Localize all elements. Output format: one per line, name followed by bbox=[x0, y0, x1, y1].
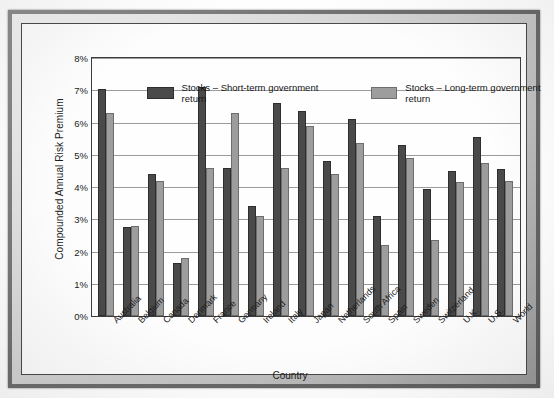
bar-chart: Compounded Annual Risk Premium 8%7%6%5%4… bbox=[44, 38, 536, 388]
bar-short-term bbox=[98, 89, 106, 316]
bar-short-term bbox=[198, 87, 206, 316]
legend-item-short-term: Stocks – Short-term government return bbox=[147, 82, 337, 104]
y-axis-tick-label: 5% bbox=[74, 149, 88, 160]
x-axis-tick-label: Germany bbox=[236, 318, 243, 325]
bar-short-term bbox=[148, 174, 156, 316]
bar-long-term bbox=[505, 181, 513, 316]
y-axis-tick-label: 1% bbox=[74, 278, 88, 289]
photograph-of-printed-chart: Compounded Annual Risk Premium 8%7%6%5%4… bbox=[0, 0, 554, 398]
x-axis-tick-label: U.K. bbox=[461, 318, 468, 325]
plot-area: 8%7%6%5%4%3%2%1%0% Stocks – Short-term g… bbox=[91, 57, 521, 317]
picture-frame-bevel: Compounded Annual Risk Premium 8%7%6%5%4… bbox=[12, 14, 536, 384]
legend-swatch-long-term bbox=[371, 87, 398, 99]
bar-long-term bbox=[231, 113, 239, 316]
bar-group bbox=[119, 58, 144, 316]
bar-short-term bbox=[298, 111, 306, 316]
picture-frame-outer-edge: Compounded Annual Risk Premium 8%7%6%5%4… bbox=[8, 10, 540, 388]
x-axis-tick-label: Netherlands bbox=[336, 318, 343, 325]
y-axis-title: Compounded Annual Risk Premium bbox=[54, 54, 68, 304]
legend-label-short-term: Stocks – Short-term government return bbox=[182, 82, 337, 104]
x-axis-tick-label: France bbox=[211, 318, 218, 325]
x-axis-tick-label: Sweden bbox=[411, 318, 418, 325]
bar-short-term bbox=[323, 161, 331, 316]
legend-item-long-term: Stocks – Long-term government return bbox=[371, 82, 554, 104]
bar-long-term bbox=[406, 158, 414, 316]
legend-swatch-short-term bbox=[147, 87, 174, 99]
bar-long-term bbox=[481, 163, 489, 316]
bar-short-term bbox=[497, 169, 505, 316]
bar-long-term bbox=[306, 126, 314, 316]
x-axis-tick-label: Spain bbox=[386, 318, 393, 325]
y-axis-tick-label: 6% bbox=[74, 117, 88, 128]
y-axis-tick-label: 4% bbox=[74, 182, 88, 193]
bar-short-term bbox=[448, 171, 456, 316]
y-axis-tick-label: 8% bbox=[74, 53, 88, 64]
x-axis-tick-label: World bbox=[511, 318, 518, 325]
legend-label-long-term: Stocks – Long-term government return bbox=[405, 82, 554, 104]
x-axis-tick-label: Denmark bbox=[186, 318, 193, 325]
bar-short-term bbox=[423, 189, 431, 316]
chart-legend: Stocks – Short-term government return St… bbox=[147, 82, 554, 104]
bar-long-term bbox=[331, 174, 339, 316]
x-axis-tick-label: Switzerland bbox=[436, 318, 443, 325]
x-axis-title: Country bbox=[44, 370, 536, 381]
x-axis-tick-label: Australia bbox=[111, 318, 118, 325]
x-axis-tick-label: South Africa bbox=[361, 318, 368, 325]
y-axis-tick-label: 0% bbox=[74, 311, 88, 322]
bar-long-term bbox=[106, 113, 114, 316]
chart-page: Compounded Annual Risk Premium 8%7%6%5%4… bbox=[21, 23, 527, 375]
bar-long-term bbox=[281, 168, 289, 316]
y-axis-tick-label: 3% bbox=[74, 214, 88, 225]
bar-short-term bbox=[273, 103, 281, 316]
bar-short-term bbox=[223, 168, 231, 316]
y-axis-tick-label: 2% bbox=[74, 246, 88, 257]
x-axis-tick-label: Belgium bbox=[136, 318, 143, 325]
x-axis-tick-label: U.S. bbox=[486, 318, 493, 325]
x-axis-tick-label: Italy bbox=[286, 318, 293, 325]
bar-group bbox=[94, 58, 119, 316]
x-axis-tick-label: Japan bbox=[311, 318, 318, 325]
x-axis-tick-label: Canada bbox=[161, 318, 168, 325]
x-axis-tick-label: Ireland bbox=[261, 318, 268, 325]
bar-short-term bbox=[348, 119, 356, 316]
x-axis-tick-labels: AustraliaBelgiumCanadaDenmarkFranceGerma… bbox=[91, 318, 519, 373]
y-axis-tick-label: 7% bbox=[74, 85, 88, 96]
